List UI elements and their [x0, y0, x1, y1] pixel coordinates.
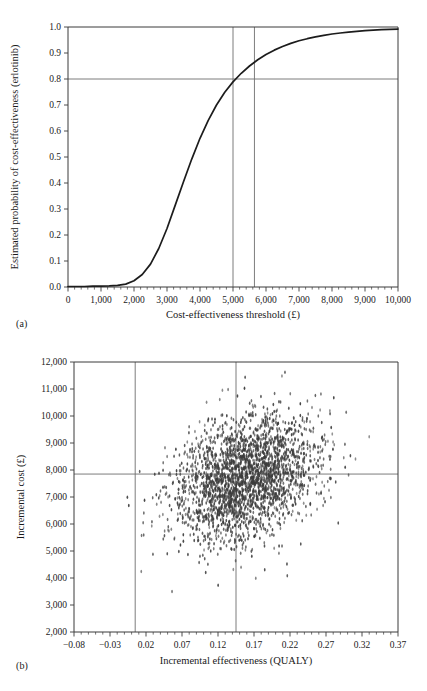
scatter-point [301, 443, 303, 447]
scatter-point [203, 508, 205, 512]
scatter-point [220, 447, 222, 451]
scatter-point [257, 463, 259, 467]
scatter-point [272, 437, 274, 441]
scatter-point [156, 502, 158, 506]
scatter-point [189, 492, 191, 496]
scatter-point [198, 503, 200, 507]
scatter-point [286, 489, 288, 493]
scatter-point [169, 494, 171, 498]
scatter-point [321, 449, 323, 453]
scatter-point [268, 463, 270, 467]
scatter-point [268, 486, 270, 490]
scatter-point [198, 450, 200, 454]
scatter-point [299, 474, 301, 478]
scatter-point [227, 528, 229, 532]
scatter-point [270, 435, 272, 439]
y-tick-label-8: 0.8 [49, 74, 61, 84]
scatter-point [274, 474, 276, 478]
scatter-point [264, 416, 266, 420]
scatter-point [281, 498, 283, 502]
scatter-point [310, 459, 312, 463]
scatter-point [277, 455, 279, 459]
scatter-point [244, 386, 246, 390]
scatter-point [217, 471, 219, 475]
scatter-point [221, 450, 223, 454]
scatter-point [212, 486, 214, 490]
scatter-point [275, 421, 277, 425]
scatter-point [238, 525, 240, 529]
scatter-point [162, 513, 164, 517]
scatter-point [195, 471, 197, 475]
scatter-point [231, 534, 233, 538]
scatter-point [263, 420, 265, 424]
scatter-point [250, 477, 252, 481]
scatter-point [248, 454, 250, 458]
scatter-point [217, 464, 219, 468]
scatter-point [329, 412, 331, 416]
scatter-point [254, 459, 256, 463]
scatter-point [217, 428, 219, 432]
scatter-point [237, 495, 239, 499]
scatter-point [241, 449, 243, 453]
scatter-point [238, 462, 240, 466]
scatter-point [271, 483, 273, 487]
scatter-point [270, 454, 272, 458]
x-tick-label-8: 0.32 [354, 640, 371, 650]
scatter-point [188, 480, 190, 484]
scatter-point [255, 448, 257, 452]
scatter-point [215, 484, 217, 488]
scatter-point [203, 534, 205, 538]
scatter-point [152, 552, 154, 556]
scatter-point [264, 412, 266, 416]
scatter-point [254, 444, 256, 448]
scatter-point [310, 513, 312, 517]
scatter-point [238, 429, 240, 433]
panel-b-scatter-plane: 2,0003,0004,0005,0006,0007,0008,0009,000… [0, 340, 427, 691]
scatter-point [244, 435, 246, 439]
figure-caption-partial [0, 679, 200, 690]
scatter-point [208, 518, 210, 522]
scatter-point [192, 501, 194, 505]
scatter-point [198, 561, 200, 565]
scatter-point [231, 417, 233, 421]
scatter-point [242, 532, 244, 536]
scatter-point [288, 489, 290, 493]
scatter-point [192, 454, 194, 458]
scatter-point [178, 503, 180, 507]
scatter-point [219, 498, 221, 502]
scatter-point [258, 486, 260, 490]
scatter-point [247, 527, 249, 531]
scatter-point [253, 527, 255, 531]
scatter-point [322, 504, 324, 508]
y-tick-label-3: 0.3 [49, 204, 61, 214]
scatter-point [231, 432, 233, 436]
scatter-point [216, 537, 218, 541]
scatter-point [274, 514, 276, 518]
x-tick-label-10: 10,000 [385, 295, 411, 305]
scatter-point [275, 497, 277, 501]
scatter-point [297, 461, 299, 465]
scatter-point [179, 453, 181, 457]
scatter-point [265, 437, 267, 441]
scatter-point [181, 504, 183, 508]
scatter-point [245, 466, 247, 470]
scatter-point [307, 447, 309, 451]
scatter-point [307, 492, 309, 496]
scatter-point [179, 472, 181, 476]
scatter-point [295, 471, 297, 475]
scatter-point [177, 517, 179, 521]
scatter-point [233, 513, 235, 517]
scatter-point [260, 463, 262, 467]
scatter-point [305, 428, 307, 432]
scatter-point [191, 450, 193, 454]
scatter-point [162, 537, 164, 541]
scatter-point [228, 503, 230, 507]
scatter-point [312, 447, 314, 451]
scatter-point [203, 481, 205, 485]
scatter-point [178, 550, 180, 554]
scatter-point [224, 540, 226, 544]
scatter-point [280, 429, 282, 433]
scatter-point [260, 458, 262, 462]
scatter-point [199, 528, 201, 532]
scatter-point [280, 481, 282, 485]
